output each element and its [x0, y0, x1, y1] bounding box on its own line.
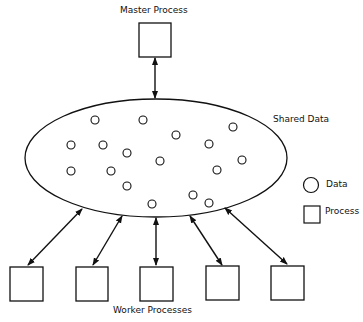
data-point-circle: [238, 156, 246, 164]
legend-data-label: Data: [326, 180, 348, 189]
double-arrow-3: [93, 216, 122, 265]
data-point-circle: [123, 182, 131, 190]
data-point-circle: [213, 166, 221, 174]
data-point-circle: [156, 157, 164, 165]
data-point-circle: [148, 200, 156, 208]
data-point-circle: [189, 191, 197, 199]
legend-process-label: Process: [325, 207, 359, 216]
double-arrow-5: [190, 216, 222, 265]
worker-processes-label: Worker Processes: [113, 306, 192, 315]
data-point-circle: [205, 140, 213, 148]
shared-data-ellipse: [25, 99, 287, 217]
data-point-circle: [67, 141, 75, 149]
data-point-circle: [229, 123, 237, 131]
worker-process-box-3: [140, 267, 173, 301]
master-process-label: Master Process: [120, 6, 188, 15]
legend-data-circle-icon: [304, 178, 319, 193]
data-point-circle: [205, 199, 213, 207]
legend-process-square-icon: [304, 206, 320, 223]
data-point-circle: [107, 167, 115, 175]
data-point-circle: [172, 131, 180, 139]
data-point-circle: [123, 149, 131, 157]
double-arrow-6: [225, 208, 287, 264]
diagram-canvas: [0, 0, 363, 322]
data-point-circle: [67, 167, 75, 175]
shared-data-label: Shared Data: [273, 115, 329, 124]
worker-process-box-5: [271, 266, 304, 300]
data-point-circle: [99, 141, 107, 149]
data-point-circle: [139, 116, 147, 124]
worker-process-box-2: [76, 267, 108, 301]
worker-process-box-1: [10, 267, 43, 301]
master-process-box: [139, 23, 171, 57]
worker-process-box-4: [206, 266, 239, 300]
data-point-circle: [91, 116, 99, 124]
double-arrow-2: [28, 209, 82, 265]
